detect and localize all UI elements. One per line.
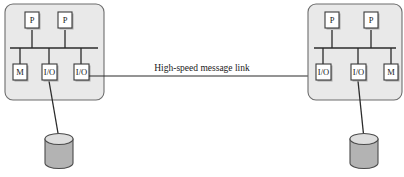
right-processor-2-label: P bbox=[369, 15, 374, 25]
cluster-diagram: P P M I/O I/O High-speed message link bbox=[0, 0, 404, 177]
right-processor-2: P bbox=[364, 12, 380, 30]
left-processor-1-label: P bbox=[30, 15, 35, 25]
right-node-panel bbox=[308, 4, 402, 100]
left-processor-2-label: P bbox=[63, 15, 68, 25]
diagram-canvas: P P M I/O I/O High-speed message link bbox=[0, 0, 404, 177]
left-processor-2: P bbox=[58, 12, 74, 30]
left-memory-label: M bbox=[16, 67, 24, 77]
left-io-1-label: I/O bbox=[44, 67, 55, 77]
left-io-2: I/O bbox=[74, 64, 91, 82]
left-io-2-label: I/O bbox=[76, 67, 87, 77]
right-processor-1: P bbox=[325, 12, 341, 30]
left-memory: M bbox=[13, 64, 29, 82]
left-io-1: I/O bbox=[42, 64, 59, 82]
right-disk-top bbox=[350, 134, 378, 145]
left-cluster-node: P P M I/O I/O bbox=[5, 4, 104, 139]
right-memory-label: M bbox=[387, 67, 395, 77]
left-disk-top bbox=[45, 134, 73, 145]
left-storage-disk bbox=[45, 134, 73, 169]
right-cluster-node: P P I/O I/O M bbox=[308, 4, 402, 139]
high-speed-message-link: High-speed message link bbox=[89, 63, 316, 76]
right-storage-disk bbox=[350, 134, 378, 169]
message-link-label: High-speed message link bbox=[154, 63, 250, 73]
left-processor-1: P bbox=[25, 12, 41, 30]
right-io-1: I/O bbox=[316, 64, 333, 82]
right-io-2: I/O bbox=[351, 64, 368, 82]
right-processor-1-label: P bbox=[330, 15, 335, 25]
right-memory: M bbox=[384, 64, 400, 82]
right-io-1-label: I/O bbox=[318, 67, 329, 77]
right-io-2-label: I/O bbox=[353, 67, 364, 77]
